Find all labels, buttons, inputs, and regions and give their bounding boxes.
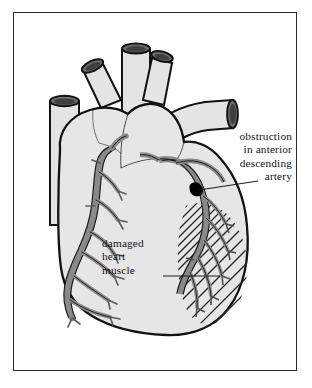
obstruction-label-line-4: artery xyxy=(240,170,292,183)
obstruction-label-line-1: obstruction xyxy=(240,130,292,143)
damaged-label-line-3: muscle xyxy=(102,264,144,277)
pulmonary-vein-left xyxy=(80,57,121,108)
damaged-label-line-2: heart xyxy=(102,250,144,263)
damaged-muscle-label: damaged heart muscle xyxy=(102,237,144,277)
obstruction-label: obstruction in anterior descending arter… xyxy=(240,130,292,184)
damaged-label-line-1: damaged xyxy=(102,237,144,250)
heart-body xyxy=(58,104,247,335)
heart-illustration-figure: obstruction in anterior descending arter… xyxy=(0,0,312,388)
obstruction-label-line-3: descending xyxy=(240,157,292,170)
obstruction-label-line-2: in anterior xyxy=(240,143,292,156)
heart-diagram-artwork xyxy=(0,0,312,388)
